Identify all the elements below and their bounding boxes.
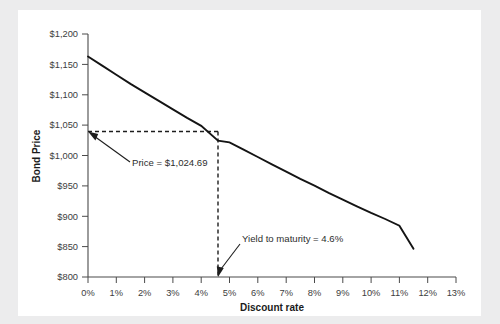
y-tick-label: $800 <box>57 272 78 282</box>
y-tick-label: $950 <box>57 181 78 191</box>
x-tick-label: 11% <box>390 288 408 298</box>
yield-arrowhead <box>217 266 224 277</box>
x-tick-label: 0% <box>81 288 94 298</box>
x-tick-label: 6% <box>251 288 264 298</box>
y-axis-tick-labels: $1,200 $1,150 $1,100 $1,050 $1,000 $950 … <box>50 29 78 282</box>
price-annotation: Price = $1,024.69 <box>88 132 207 169</box>
chart-card: $1,200 $1,150 $1,100 $1,050 $1,000 $950 … <box>18 10 481 316</box>
x-tick-label: 9% <box>336 288 349 298</box>
price-arrowhead <box>88 132 98 141</box>
bond-price-curve <box>88 57 414 249</box>
y-tick-label: $1,200 <box>50 29 78 39</box>
x-tick-label: 2% <box>138 288 151 298</box>
y-axis-ticks <box>82 34 88 277</box>
y-tick-label: $1,150 <box>50 60 78 70</box>
y-tick-label: $1,050 <box>50 120 78 130</box>
x-tick-label: 3% <box>166 288 179 298</box>
bond-price-chart: $1,200 $1,150 $1,100 $1,050 $1,000 $950 … <box>18 10 481 316</box>
x-tick-label: 4% <box>194 288 207 298</box>
x-tick-label: 1% <box>110 288 123 298</box>
x-axis-title: Discount rate <box>240 302 304 313</box>
yield-annotation-label: Yield to maturity = 4.6% <box>242 233 344 244</box>
y-axis-title: Bond Price <box>31 129 42 182</box>
y-tick-label: $900 <box>57 212 78 222</box>
x-tick-label: 7% <box>279 288 292 298</box>
x-tick-label: 10% <box>362 288 381 298</box>
y-tick-label: $850 <box>57 242 78 252</box>
x-tick-label: 5% <box>223 288 236 298</box>
x-axis-tick-labels: 0% 1% 2% 3% 4% 5% 6% 7% 8% 9% 10% 11% 12… <box>81 288 465 298</box>
price-annotation-label: Price = $1,024.69 <box>132 157 207 168</box>
yield-annotation: Yield to maturity = 4.6% <box>217 233 344 277</box>
x-axis-ticks <box>88 277 456 283</box>
y-tick-label: $1,000 <box>50 151 78 161</box>
x-tick-label: 8% <box>308 288 321 298</box>
x-tick-label: 13% <box>447 288 466 298</box>
y-tick-label: $1,100 <box>50 90 78 100</box>
x-tick-label: 12% <box>418 288 437 298</box>
